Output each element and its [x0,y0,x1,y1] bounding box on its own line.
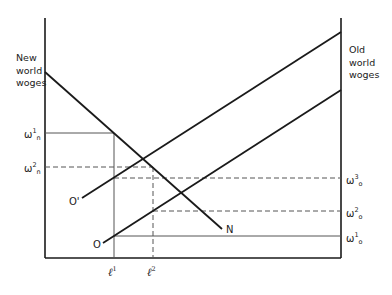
label-l2: ℓ2 [147,264,156,278]
right-axis-title-line: world [349,57,379,70]
label-curve-n: N [226,224,233,235]
label-curve-o-prime: O' [69,196,80,207]
left-axis-title-line: New [16,52,46,65]
right-axis-title-line: woges [349,69,379,82]
left-axis-title-line: woges [16,77,46,90]
label-sub: n [37,168,41,176]
right-axis-title-line: Old [349,44,379,57]
old-world-supply-line [103,90,341,243]
label-w2n: ω2n [24,160,41,178]
left-axis-title: New world woges [16,52,46,90]
label-sub: o [359,238,363,246]
label-w3o: ω3o [346,172,363,190]
label-w1n: ω1n [24,126,41,144]
left-axis-title-line: world [16,65,46,78]
labor-market-diagram [0,0,392,295]
label-sub: o [359,180,363,188]
label-sup: 1 [113,265,117,273]
label-sub: o [359,213,363,221]
label-curve-o: O [93,239,101,250]
right-axis-title: Old world woges [349,44,379,82]
label-w1o: ω1o [346,230,363,248]
label-sub: n [37,134,41,142]
label-w2o: ω2o [346,205,363,223]
label-l1: ℓ1 [108,264,117,278]
label-sup: 2 [152,265,156,273]
